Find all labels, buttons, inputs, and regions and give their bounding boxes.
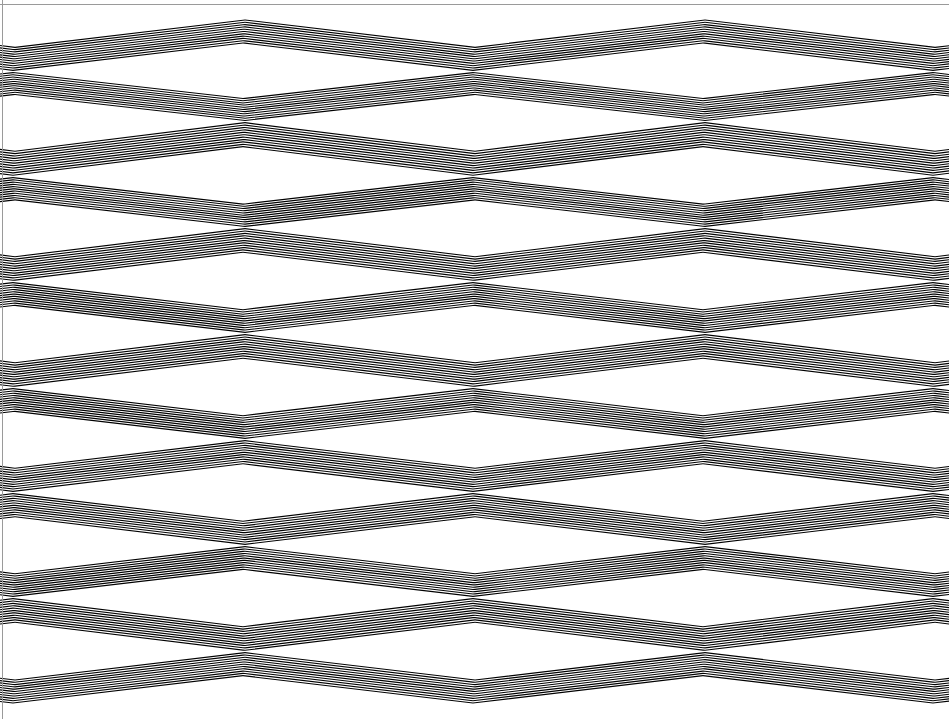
- op-art-canvas: [0, 0, 949, 719]
- op-art-pattern: [0, 0, 949, 719]
